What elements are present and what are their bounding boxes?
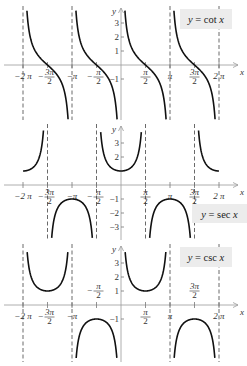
curve-sec <box>150 199 191 238</box>
y-tick-label: −1 <box>109 194 119 204</box>
tick-label: 2 π <box>213 311 225 321</box>
tick-label-minus: − <box>87 191 92 201</box>
tick-label-denominator: 2 <box>96 76 101 86</box>
tick-label-denominator: 2 <box>47 316 52 326</box>
y-tick-label: −1 <box>109 314 119 324</box>
curve-csc <box>27 252 68 291</box>
tick-label: π <box>168 71 173 81</box>
tick-label-minus: − <box>87 71 92 81</box>
y-axis-label: y <box>111 6 116 16</box>
tick-label: π <box>168 311 173 321</box>
tick-label-minus: − <box>87 285 92 295</box>
tick-label-denominator: 2 <box>143 196 148 206</box>
tick-label: −π <box>67 311 78 321</box>
curve-sec <box>199 130 219 171</box>
trig-functions-chart: xy321−1−2 π−3π2−π−π2π2π3π22 πy = cot xxy… <box>0 0 247 366</box>
y-tick-label: 1 <box>115 46 120 56</box>
y-tick-label: 2 <box>115 272 120 282</box>
tick-label-minus: − <box>38 311 43 321</box>
curve-sec <box>23 130 43 171</box>
legend-sec: y = sec x <box>200 209 238 220</box>
tick-label: −2 π <box>14 191 32 201</box>
y-tick-label: −3 <box>109 222 119 232</box>
y-tick-label: 2 <box>115 32 120 42</box>
y-tick-label: 3 <box>115 258 120 268</box>
y-axis-label: y <box>111 244 116 254</box>
y-tick-label: 2 <box>115 152 120 162</box>
tick-label-denominator: 2 <box>47 196 52 206</box>
tick-label-denominator: 2 <box>192 76 197 86</box>
tick-label-denominator: 2 <box>192 290 197 300</box>
legend-cot: y = cot x <box>187 14 224 25</box>
tick-label: −2 π <box>14 311 32 321</box>
tick-label: −π <box>67 71 78 81</box>
tick-label: 2 π <box>213 191 225 201</box>
x-axis-label: x <box>239 67 244 77</box>
panel-csc: xy321−1−2 π−3π2−π−π2π2π3π22 πy = csc x <box>4 244 244 362</box>
y-tick-label: 3 <box>115 138 120 148</box>
curve-csc <box>76 319 117 358</box>
y-axis-label: y <box>111 124 116 134</box>
y-tick-label: −2 <box>109 208 119 218</box>
curve-sec <box>52 199 93 238</box>
tick-label: −2 π <box>14 71 32 81</box>
tick-label-denominator: 2 <box>96 196 101 206</box>
tick-label-minus: − <box>38 71 43 81</box>
x-axis-label: x <box>239 187 244 197</box>
x-axis-label: x <box>239 307 244 317</box>
panel-cot: xy321−1−2 π−3π2−π−π2π2π3π22 πy = cot x <box>4 6 244 120</box>
y-tick-label: 3 <box>115 18 120 28</box>
curve-csc <box>125 252 166 291</box>
tick-label-denominator: 2 <box>143 76 148 86</box>
panel-sec: xy32−1−2−3−2 π−3π2−π−π2π2π3π22 πy = sec … <box>4 124 247 240</box>
legend-csc: y = csc x <box>187 252 225 263</box>
tick-label-denominator: 2 <box>96 290 101 300</box>
tick-label: 2 π <box>213 71 225 81</box>
tick-label-denominator: 2 <box>47 76 52 86</box>
tick-label-denominator: 2 <box>143 316 148 326</box>
tick-label-minus: − <box>38 191 43 201</box>
curve-csc <box>174 319 215 358</box>
y-tick-label: 1 <box>115 286 120 296</box>
